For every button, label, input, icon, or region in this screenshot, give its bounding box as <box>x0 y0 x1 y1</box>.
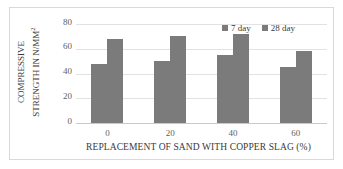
chart-container: 7 day 28 day COMPRESSIVE STRENGTH IN N/M… <box>9 7 334 160</box>
bar-7-day-40[interactable] <box>217 55 233 123</box>
bar-groups <box>76 24 327 123</box>
x-tick-0: 0 <box>76 127 139 141</box>
bar-group-40 <box>202 24 265 123</box>
plot-area <box>76 24 327 123</box>
y-axis-title-line1: COMPRESSIVE <box>16 41 27 103</box>
bar-7-day-60[interactable] <box>280 67 296 123</box>
y-tick-40: 40 <box>63 67 72 76</box>
x-axis-title: REPLACEMENT OF SAND WITH COPPER SLAG (%) <box>56 142 341 152</box>
y-tick-0: 0 <box>68 117 73 126</box>
y-axis-title: COMPRESSIVE STRENGTH IN N/MM2 <box>12 16 46 128</box>
y-tick-60: 60 <box>63 42 72 51</box>
x-tick-20: 20 <box>139 127 202 141</box>
y-axis-title-line2: STRENGTH IN N/MM2 <box>27 27 42 116</box>
bar-group-0 <box>76 24 139 123</box>
y-axis-ticks: 80 60 40 20 0 <box>48 18 72 129</box>
bar-28-day-60[interactable] <box>296 51 312 123</box>
x-tick-40: 40 <box>202 127 265 141</box>
y-tick-20: 20 <box>63 92 72 101</box>
x-axis-ticks: 0 20 40 60 <box>76 127 327 141</box>
bar-28-day-40[interactable] <box>233 34 249 123</box>
gridline-baseline-0 <box>76 123 327 124</box>
x-tick-60: 60 <box>264 127 327 141</box>
bar-group-20 <box>139 24 202 123</box>
bar-7-day-0[interactable] <box>91 64 107 123</box>
bar-group-60 <box>264 24 327 123</box>
bar-28-day-0[interactable] <box>107 39 123 123</box>
bar-7-day-20[interactable] <box>154 61 170 123</box>
y-tick-80: 80 <box>63 18 72 27</box>
bar-28-day-20[interactable] <box>170 36 186 123</box>
